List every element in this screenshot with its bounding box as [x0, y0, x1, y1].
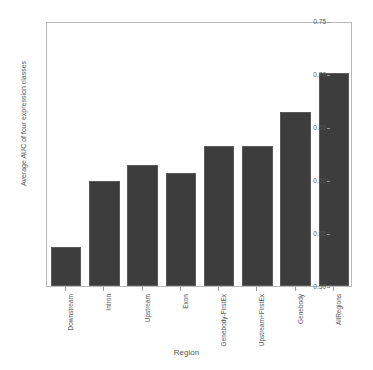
- y-tick-mark: [327, 287, 330, 288]
- y-axis-title: Average AUC of four expression classes: [20, 9, 27, 239]
- bar: [166, 173, 197, 286]
- x-tick-label: AllRegions: [336, 294, 343, 325]
- bar: [89, 181, 120, 286]
- x-tick-label: Intron: [106, 294, 113, 311]
- x-tick-mark: [142, 287, 143, 291]
- x-tick-label: Genebody: [298, 294, 305, 324]
- y-tick-mark: [327, 75, 330, 76]
- x-tick-mark: [180, 287, 181, 291]
- x-tick-mark: [218, 287, 219, 291]
- x-tick-label: Upstream: [145, 294, 152, 322]
- bar: [204, 146, 235, 286]
- bar-chart-figure: Average AUC of four expression classes R…: [0, 0, 373, 370]
- y-tick-label: 0.65: [313, 125, 326, 132]
- y-axis: Average AUC of four expression classes: [0, 0, 46, 310]
- bar: [127, 165, 158, 286]
- x-tick-mark: [295, 287, 296, 291]
- y-tick-label: 0.60: [313, 178, 326, 185]
- x-tick-mark: [256, 287, 257, 291]
- x-tick-label: Genebody-FirstEx: [221, 294, 228, 346]
- y-tick-mark: [327, 181, 330, 182]
- y-tick-label: 0.75: [313, 19, 326, 26]
- bar: [242, 146, 273, 286]
- x-tick-mark: [103, 287, 104, 291]
- x-tick-mark: [65, 287, 66, 291]
- bar: [280, 112, 311, 286]
- x-tick-label: Upstream+FirstEx: [259, 294, 266, 346]
- y-tick-mark: [327, 22, 330, 23]
- x-axis-title: Region: [0, 349, 373, 357]
- y-tick-label: 0.70: [313, 72, 326, 79]
- bar: [51, 247, 82, 286]
- x-tick-mark: [333, 287, 334, 291]
- plot-area: [46, 22, 352, 287]
- y-tick-label: 0.55: [313, 231, 326, 238]
- y-tick-mark: [327, 234, 330, 235]
- x-tick-label: Downstream: [68, 294, 75, 330]
- x-tick-label: Exon: [183, 294, 190, 309]
- y-tick-mark: [327, 128, 330, 129]
- y-tick-label: 0.50: [313, 284, 326, 291]
